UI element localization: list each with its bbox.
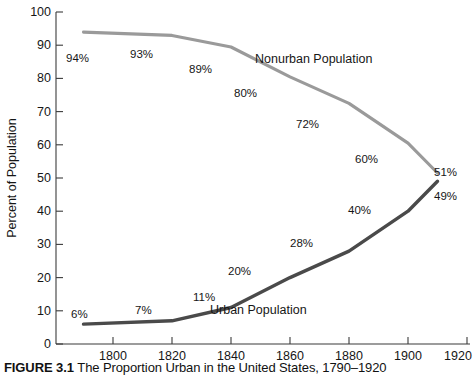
y-tick-label: 90 [37,38,51,52]
y-tick-label: 80 [37,71,51,85]
y-axis-ticks: 0 10 20 30 40 50 60 70 80 90 100 [30,5,63,351]
data-label: 60% [355,153,378,165]
data-label: 11% [193,291,215,303]
y-tick-label: 70 [37,105,51,119]
figure-container: Percent of Population 0 10 20 30 40 50 6… [0,0,474,376]
data-label: 40% [348,204,371,216]
series-label-urban: Urban Population [210,303,307,317]
y-tick-label: 0 [44,337,51,351]
data-label: 7% [135,304,152,316]
data-label: 80% [234,87,257,99]
series-label-nonurban: Nonurban Population [255,52,372,66]
data-label: 94% [66,52,89,64]
y-tick-label: 10 [37,304,51,318]
y-axis-title: Percent of Population [5,118,19,238]
data-label: 28% [290,237,313,249]
y-tick-label: 30 [37,237,51,251]
y-tick-label: 60 [37,138,51,152]
figure-caption: FIGURE 3.1 The Proportion Urban in the U… [4,360,470,375]
data-label: 49% [434,190,457,202]
line-chart: Percent of Population 0 10 20 30 40 50 6… [0,0,474,376]
data-label: 51% [434,166,457,178]
data-labels-nonurban: 94% 93% 89% 80% 72% 60% 51% [66,48,457,178]
figure-caption-label: FIGURE 3.1 [4,360,74,375]
y-tick-label: 20 [37,271,51,285]
data-label: 20% [228,265,251,277]
data-labels-urban: 6% 7% 11% 20% 28% 40% 49% [71,190,457,320]
y-tick-label: 100 [30,5,51,19]
data-label: 6% [71,308,88,320]
y-tick-label: 40 [37,204,51,218]
y-tick-label: 50 [37,171,51,185]
data-label: 89% [189,63,212,75]
figure-caption-text: The Proportion Urban in the United State… [77,360,386,375]
data-label: 93% [130,48,153,60]
data-label: 72% [296,118,319,130]
